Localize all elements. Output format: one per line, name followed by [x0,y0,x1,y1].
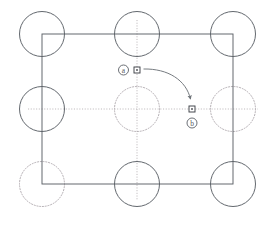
dotted-circles-group [20,87,256,207]
guide-lines-group [28,20,258,200]
lattice-diagram-canvas: a b [0,0,273,225]
marker-b-label: b [190,119,194,128]
displacement-arrow [144,69,191,99]
marker-b-square-core [191,108,193,110]
lattice-diagram-svg: a b [0,0,273,225]
marker-a-square-core [136,69,138,71]
